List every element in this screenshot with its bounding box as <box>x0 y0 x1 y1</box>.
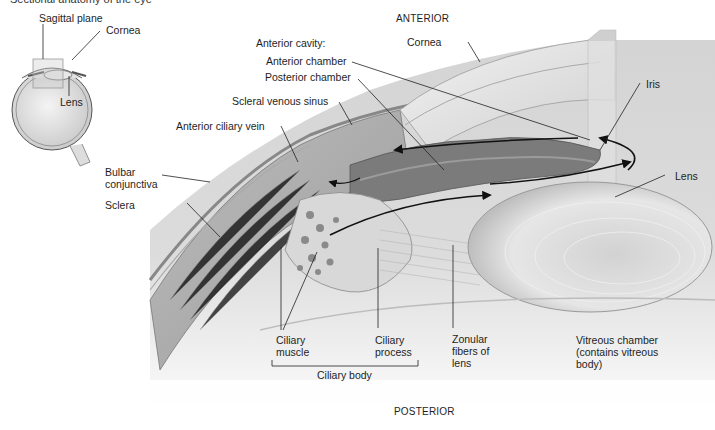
inset-eye <box>12 24 100 166</box>
eye-anatomy-figure: Sectional anatomy of the eye <box>0 0 715 430</box>
orientation-posterior: POSTERIOR <box>394 406 455 418</box>
label-ciliary-body: Ciliary body <box>317 369 372 381</box>
label-anterior-chamber: Anterior chamber <box>266 55 347 67</box>
inset-label-cornea: Cornea <box>106 24 140 36</box>
label-posterior-chamber: Posterior chamber <box>265 71 351 83</box>
label-anterior-cavity: Anterior cavity: <box>256 37 325 49</box>
label-sclera: Sclera <box>105 199 135 211</box>
label-ciliary-muscle: Ciliary muscle <box>276 334 326 358</box>
inset-label-sagittal-plane: Sagittal plane <box>39 12 103 24</box>
label-zonular-fibers: Zonular fibers of lens <box>452 333 496 369</box>
label-ciliary-process: Ciliary process <box>375 334 425 358</box>
inset-label-lens: Lens <box>60 96 83 108</box>
label-scleral-venous-sinus: Scleral venous sinus <box>232 95 328 107</box>
label-anterior-ciliary-vein: Anterior ciliary vein <box>176 120 265 132</box>
orientation-anterior: ANTERIOR <box>396 13 449 25</box>
label-lens: Lens <box>675 170 698 182</box>
label-bulbar-conjunctiva: Bulbar conjunctiva <box>105 166 175 190</box>
label-cornea: Cornea <box>407 36 441 48</box>
label-vitreous-chamber: Vitreous chamber (contains vitreous body… <box>576 334 668 370</box>
label-iris: Iris <box>646 78 660 90</box>
